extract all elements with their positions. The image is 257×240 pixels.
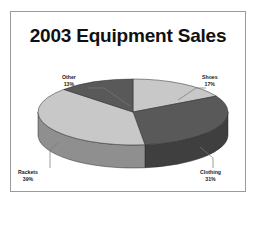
- slice-label-shoes-pct: 17%: [202, 81, 218, 88]
- slice-label-rackets-name: Rackets: [18, 169, 38, 176]
- slice-label-shoes: Shoes 17%: [202, 74, 218, 88]
- slice-label-rackets-pct: 39%: [18, 176, 38, 183]
- slice-label-other-name: Other: [62, 74, 76, 81]
- slice-label-other: Other 13%: [62, 74, 76, 88]
- slice-label-shoes-name: Shoes: [202, 74, 218, 81]
- slice-label-clothing: Clothing 31%: [200, 169, 221, 183]
- slice-label-clothing-name: Clothing: [200, 169, 221, 176]
- pie-3d: [38, 79, 228, 168]
- slice-label-other-pct: 13%: [62, 81, 76, 88]
- slice-label-clothing-pct: 31%: [200, 176, 221, 183]
- slice-label-rackets: Rackets 39%: [18, 169, 38, 183]
